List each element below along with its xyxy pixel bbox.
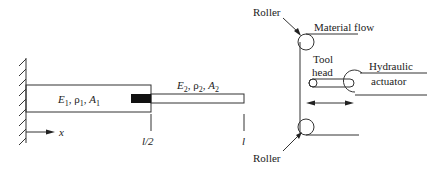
tool-head-label-2: head [312, 66, 333, 78]
bar-diagram: E1, ρ1, A1 E2, ρ2, A2 x l/2 l [19, 58, 245, 147]
end-label: l [242, 135, 245, 147]
midpoint-label: l/2 [142, 135, 154, 147]
arrow-right-icon [345, 101, 354, 106]
roller-top-label: Roller [253, 6, 281, 18]
hydraulic-actuator [343, 70, 362, 92]
bar-segment-2 [151, 94, 244, 103]
roller-bottom-leader [283, 135, 299, 151]
actuator-label-1: Hydraulic [369, 60, 413, 72]
figure: E1, ρ1, A1 E2, ρ2, A2 x l/2 l [0, 0, 446, 170]
segment-2-label: E2, ρ2, A2 [176, 79, 219, 94]
tool-head-label-1: Tool [313, 53, 333, 65]
lumped-mass [131, 94, 151, 103]
arrow-left-icon [306, 101, 315, 106]
actuator-label-2: actuator [371, 75, 407, 87]
roller-bottom-label: Roller [253, 152, 281, 164]
tool-head-tip [309, 79, 317, 87]
machine-diagram: Roller Roller Material flow Tool head Hy… [253, 6, 427, 164]
arrowhead-icon [296, 132, 302, 139]
material-flow-label: Material flow [314, 21, 374, 33]
x-axis-label: x [58, 126, 64, 138]
segment-1-label: E1, ρ1, A1 [57, 93, 100, 108]
arrowhead-icon [46, 130, 55, 135]
wall-hatching [19, 59, 26, 145]
